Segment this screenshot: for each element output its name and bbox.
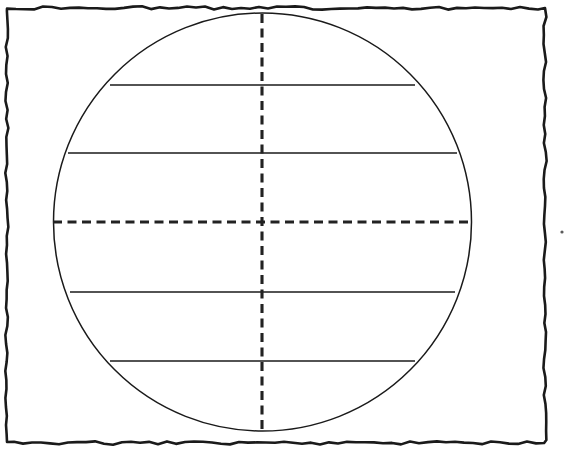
figure-canvas: Sphere diagram with latitude chords and … (0, 0, 575, 449)
stray-dot-mark (560, 230, 563, 233)
page-background (0, 0, 575, 449)
sphere-diagram (0, 0, 575, 449)
